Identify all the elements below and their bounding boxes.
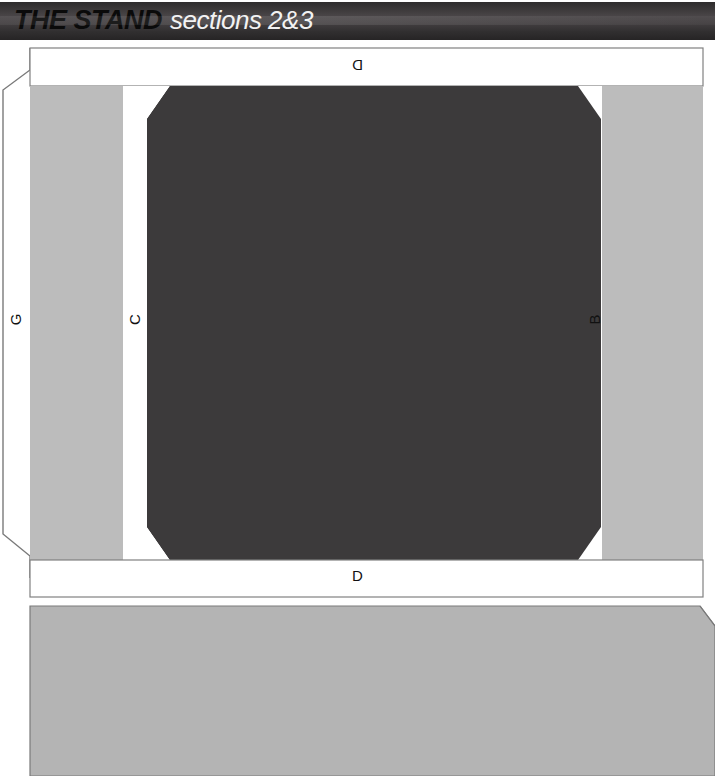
stand-diagram: D D G C B — [0, 44, 715, 776]
section-label-d-top: D — [0, 58, 715, 73]
section-label-b: B — [587, 308, 602, 332]
header-banner: THE STAND sections 2&3 — [0, 2, 715, 40]
central-dark-body — [147, 86, 601, 560]
section-label-d-bottom: D — [0, 568, 715, 583]
seating-block-g — [30, 86, 123, 560]
lower-grey-panel — [30, 606, 715, 776]
section-label-g: G — [8, 308, 23, 332]
page-title: THE STAND — [14, 5, 162, 36]
page-subtitle: sections 2&3 — [170, 5, 313, 36]
stand-diagram-svg — [0, 44, 715, 776]
seating-block-right — [602, 86, 703, 560]
section-label-c: C — [127, 308, 142, 332]
